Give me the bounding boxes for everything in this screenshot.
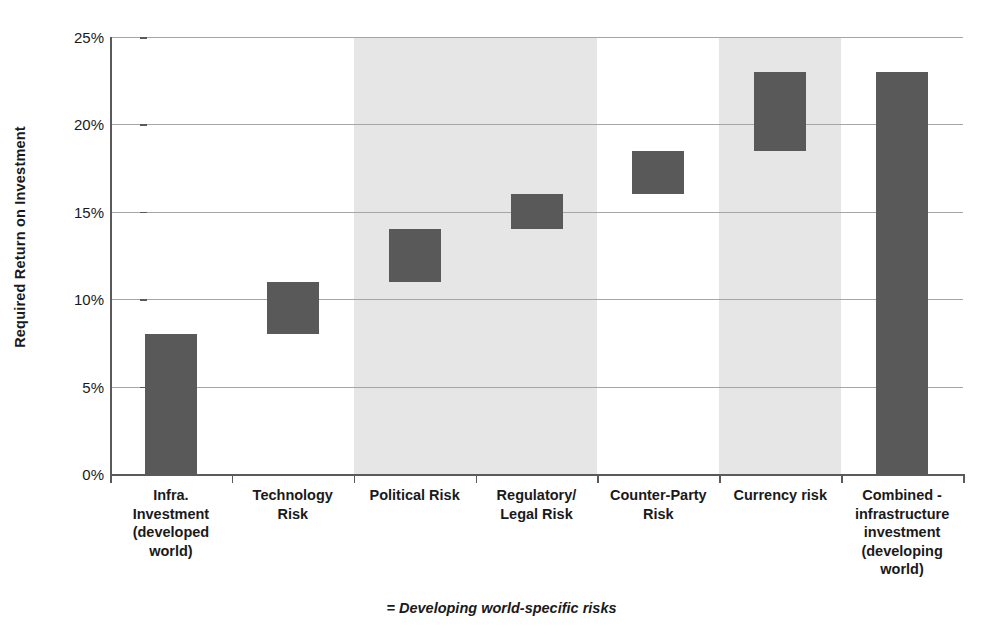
y-tick-label: 10% xyxy=(42,292,104,307)
x-category-label-7: Combined -infrastructureinvestment(devel… xyxy=(841,486,963,579)
y-tick-mark xyxy=(140,124,147,126)
x-category-label-2: TechnologyRisk xyxy=(232,486,354,523)
x-category-label-4: Regulatory/Legal Risk xyxy=(476,486,598,523)
y-tick-label: 20% xyxy=(42,117,104,132)
y-tick-label: 15% xyxy=(42,204,104,219)
x-category-label-6: Currency risk xyxy=(719,486,841,505)
bar-3 xyxy=(389,229,441,281)
bar-5 xyxy=(632,151,684,195)
y-tick-mark xyxy=(140,474,147,476)
x-tick-mark xyxy=(841,474,843,483)
bar-4 xyxy=(511,194,563,229)
y-axis-ticks: 0%5%10%15%20%25% xyxy=(36,0,104,642)
y-axis-title: Required Return on Investment xyxy=(0,0,40,474)
x-tick-mark xyxy=(597,474,599,483)
y-axis-title-text: Required Return on Investment xyxy=(12,126,28,348)
y-axis-line xyxy=(110,37,112,475)
y-tick-mark xyxy=(140,37,147,39)
bar-6 xyxy=(754,72,806,151)
x-category-label-3: Political Risk xyxy=(354,486,476,505)
x-category-label-1: Infra.Investment(developedworld) xyxy=(110,486,232,560)
y-tick-label: 25% xyxy=(42,30,104,45)
bar-7 xyxy=(876,72,928,474)
x-tick-mark xyxy=(476,474,478,483)
gridline xyxy=(110,387,963,388)
x-category-label-5: Counter-PartyRisk xyxy=(597,486,719,523)
y-tick-label: 0% xyxy=(42,467,104,482)
chart-annotation: = Developing world-specific risks xyxy=(0,600,1003,616)
gridline xyxy=(110,124,963,125)
bar-1 xyxy=(145,334,197,474)
y-tick-mark xyxy=(140,299,147,301)
gridline xyxy=(110,37,963,38)
y-tick-mark xyxy=(140,212,147,214)
x-tick-mark xyxy=(110,474,112,483)
bar-2 xyxy=(267,282,319,334)
plot-area xyxy=(110,37,963,474)
x-tick-mark xyxy=(963,474,965,483)
x-tick-mark xyxy=(719,474,721,483)
y-tick-label: 5% xyxy=(42,379,104,394)
x-tick-mark xyxy=(232,474,234,483)
gridline xyxy=(110,299,963,300)
x-axis-line xyxy=(110,474,964,476)
waterfall-chart: Required Return on Investment 0%5%10%15%… xyxy=(0,0,1003,642)
y-tick-mark xyxy=(140,387,147,389)
x-tick-mark xyxy=(354,474,356,483)
